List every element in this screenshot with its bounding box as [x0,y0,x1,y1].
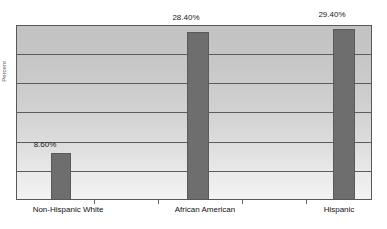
axis-tick [158,200,159,204]
plot-area [16,25,372,200]
value-label-hispanic: 29.40% [311,10,353,19]
bar-chart-figure: Percent 8.60% 28.40% 29.40% Non-Hispanic… [0,0,387,229]
y-axis-label: Percent [1,42,8,102]
category-label-non-hispanic-white: Non-Hispanic White [10,205,126,215]
bar-non-hispanic-white[interactable] [51,153,71,200]
value-label-non-hispanic-white: 8.60% [24,140,66,149]
axis-tick [94,200,95,204]
bar-hispanic[interactable] [333,29,355,200]
value-label-african-american: 28.40% [165,13,207,22]
axis-tick [306,200,307,204]
axis-tick [242,200,243,204]
category-label-hispanic: Hispanic [299,205,379,215]
bar-african-american[interactable] [187,32,209,200]
category-label-african-american: African American [147,205,263,215]
